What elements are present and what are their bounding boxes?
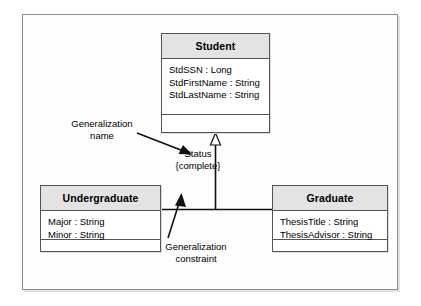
operations-compartment-undergraduate [41, 240, 160, 252]
attribute-item: ThesisTitle : String [280, 216, 387, 229]
class-name-student: Student [162, 34, 269, 59]
attributes-compartment-student: StdSSN : Long StdFirstName : String StdL… [162, 59, 269, 115]
operations-compartment-graduate [273, 240, 387, 252]
class-name-undergraduate: Undergraduate [41, 186, 160, 211]
uml-class-student[interactable]: Student StdSSN : Long StdFirstName : Str… [161, 33, 270, 133]
class-name-graduate: Graduate [273, 186, 387, 211]
attribute-item: ThesisAdvisor : String [280, 229, 387, 242]
annotation-generalization-constraint: Generalization constraint [152, 241, 240, 265]
attributes-compartment-undergraduate: Major : String Minor : String [41, 211, 160, 240]
annotation-line-2: constraint [152, 253, 240, 265]
attribute-item: StdSSN : Long [169, 64, 269, 77]
operations-compartment-student [162, 115, 269, 133]
attribute-item: StdLastName : String [169, 89, 269, 102]
diagram-canvas: Student StdSSN : Long StdFirstName : Str… [0, 0, 421, 306]
uml-class-undergraduate[interactable]: Undergraduate Major : String Minor : Str… [40, 185, 161, 252]
uml-class-graduate[interactable]: Graduate ThesisTitle : String ThesisAdvi… [272, 185, 388, 252]
generalization-name-text: Status [172, 148, 224, 160]
annotation-line-1: Generalization [152, 241, 240, 253]
attribute-item: Major : String [48, 216, 160, 229]
attribute-item: StdFirstName : String [169, 77, 269, 90]
annotation-generalization-name: Generalization name [63, 118, 141, 142]
generalization-label: Status {complete} [172, 148, 224, 172]
attributes-compartment-graduate: ThesisTitle : String ThesisAdvisor : Str… [273, 211, 387, 240]
generalization-constraint-text: {complete} [172, 160, 224, 172]
annotation-line-1: Generalization [63, 118, 141, 130]
annotation-line-2: name [63, 130, 141, 142]
